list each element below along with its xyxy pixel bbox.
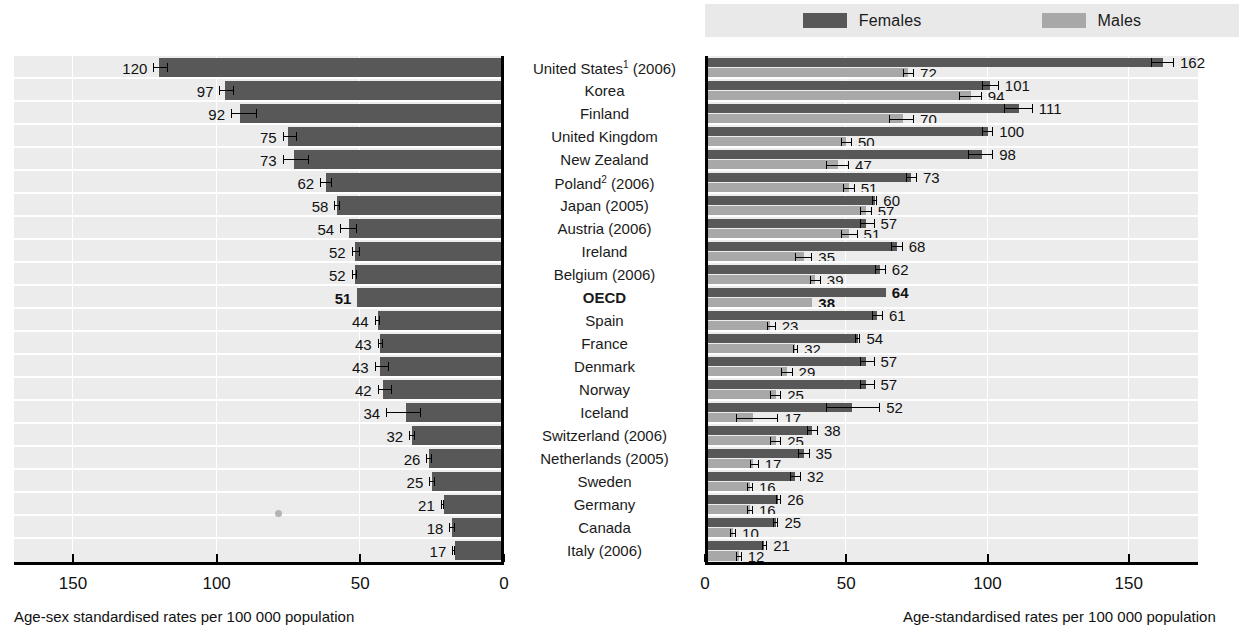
error-cap-right [1032,104,1033,113]
bar-males [705,551,739,561]
right-plot-area: 1627210194111701005098477351605757516835… [705,56,1198,562]
error-cap-left [375,316,376,325]
error-cap-right [420,408,421,417]
error-cap-left [860,380,861,389]
axis-tick-right-50 [845,554,847,562]
bar-total [357,288,504,307]
row-separator [705,514,1198,516]
error-cap-left [320,178,321,187]
bar-females [705,127,988,137]
table-row [14,380,504,399]
bar-females [705,288,886,298]
value-label-total: 75 [260,130,277,145]
error-bar [283,159,309,160]
right-chart-panel: 1627210194111701005098477351605757516835… [705,56,1198,562]
left-axis-right-spine [501,56,504,565]
row-separator [14,468,504,470]
error-bar [968,154,993,155]
error-bar [452,550,455,551]
country-label-netherlands: Netherlands (2005) [504,451,705,466]
value-label-total: 43 [352,360,369,375]
table-row [14,357,504,376]
table-row [705,104,1198,114]
row-separator [14,491,504,493]
value-label-total: 62 [297,176,314,191]
error-bar [773,522,779,523]
error-cap-left [875,265,876,274]
axis-tick-label-right-0: 0 [700,574,709,594]
table-row [705,357,1198,367]
error-bar [860,361,874,362]
bar-females [705,357,866,367]
error-bar [872,315,883,316]
error-bar [889,119,914,120]
error-bar [982,85,999,86]
error-bar [872,200,878,201]
legend-swatch-females-icon [803,13,847,28]
bar-total [406,403,504,422]
table-row [705,81,1198,91]
error-cap-right [331,178,332,187]
error-cap-left [378,339,379,348]
row-separator [14,353,504,355]
error-cap-left [855,334,856,343]
error-bar [982,131,993,132]
table-row [705,518,1198,528]
error-bar [441,504,444,505]
error-cap-right [167,63,168,72]
row-separator [14,123,504,125]
error-cap-left [807,426,808,435]
error-cap-left [441,500,442,509]
bar-total [455,541,504,560]
bar-females [705,449,804,459]
table-row [14,58,504,77]
error-cap-right [414,431,415,440]
axis-tick-label-left-50: 50 [351,574,370,594]
bar-total [240,104,504,123]
table-row [705,403,1198,413]
error-bar [959,96,982,97]
error-bar [386,412,420,413]
error-bar [283,136,297,137]
error-bar [875,269,886,270]
error-cap-right [766,541,767,550]
bar-total [383,380,504,399]
error-cap-right [379,316,380,325]
country-label-japan: Japan (2005) [504,198,705,213]
bar-total [452,518,504,537]
axis-tick-right-0 [704,554,706,562]
row-separator [705,284,1198,286]
bar-total [380,357,504,376]
axis-tick-left-50 [359,554,361,562]
error-cap-left [219,86,220,95]
country-label-spain: Spain [504,313,705,328]
row-separator [14,192,504,194]
bar-total [326,173,504,192]
table-row [14,334,504,353]
error-cap-right [431,454,432,463]
error-cap-left [773,518,774,527]
value-label-total: 52 [329,268,346,283]
bar-total [378,311,504,330]
table-row [14,472,504,491]
country-label-switzerland: Switzerland (2006) [504,428,705,443]
error-bar [810,280,821,281]
error-cap-left [1004,104,1005,113]
table-row [705,334,1198,344]
country-label-column: United States1 (2006)KoreaFinlandUnited … [504,56,705,562]
error-cap-left [334,201,335,210]
error-cap-right [359,247,360,256]
value-label-total: 92 [208,107,225,122]
error-bar [903,73,914,74]
row-separator [705,215,1198,217]
error-bar [770,395,781,396]
bar-total [355,242,504,261]
bar-females [705,265,880,275]
error-bar [843,188,854,189]
error-bar [747,510,753,511]
bar-total [294,150,504,169]
error-cap-left [872,196,873,205]
error-cap-right [233,86,234,95]
error-bar [855,338,861,339]
error-bar [826,407,880,408]
